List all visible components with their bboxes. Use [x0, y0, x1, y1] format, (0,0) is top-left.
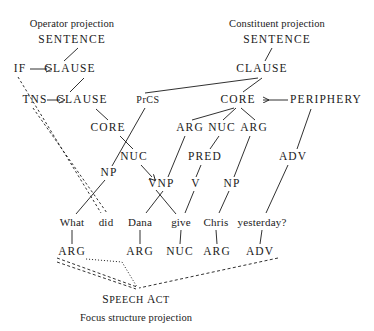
op-node-clause-1: CLAUSE [44, 63, 95, 75]
cn-node-pred: PRED [188, 151, 222, 163]
cn-node-np-2: NP [158, 178, 175, 190]
edge-op-clause2-core [96, 109, 108, 120]
edge-cn-periphery-adv [297, 109, 311, 149]
edge-cn-core-arg1 [192, 108, 234, 120]
edge-focus-potential-left [57, 258, 137, 287]
edge-focus-actual-focus-domain [86, 259, 137, 287]
op-node-sentence: SENTENCE [38, 34, 106, 46]
edge-cn-np3-chris [219, 191, 229, 213]
cn-node-sentence: SENTENCE [243, 34, 311, 46]
op-node-clause-2: CLAUSE [56, 94, 107, 106]
word-what: What [60, 217, 85, 228]
cn-node-periphery: PERIPHERY [290, 94, 362, 106]
cn-node-nuc: NUC [208, 122, 236, 134]
cn-node-prcs: PrCS [136, 95, 160, 105]
fs-node-arg-1: ARG [58, 246, 86, 258]
cn-node-arg-2: ARG [240, 122, 268, 134]
fs-node-arg-2: ARG [126, 246, 154, 258]
edge-op-v-give [156, 190, 176, 214]
edge-cn-nuc-pred [210, 136, 219, 149]
edge-cn-np2-dana [146, 191, 163, 213]
word-did: did [99, 217, 114, 228]
rrg-clause-structure-diagram: CLAUSE1 (arrow) --> CLAUSE2 (arrow) --> [0, 0, 374, 331]
operator-projection-caption: Operator projection [30, 19, 114, 30]
fs-node-adv: ADV [246, 246, 274, 258]
edge-give-nuc [180, 230, 181, 244]
cn-node-adv: ADV [279, 151, 307, 163]
cn-node-core: CORE [220, 94, 255, 106]
edge-op-sentence-clause [64, 48, 78, 61]
op-node-if: IF [14, 63, 26, 75]
edge-cn-pred-v [196, 165, 201, 177]
edge-cn-arg1-np2 [168, 136, 185, 177]
edge-chris-arg [216, 230, 217, 244]
edge-yesterday-adv [260, 230, 262, 244]
speech-act-s: S [102, 293, 109, 305]
word-to-focus-edges [72, 230, 262, 244]
constituent-projection-caption: Constituent projection [229, 19, 325, 30]
edge-cn-clause-core [243, 78, 262, 92]
fs-node-arg-3: ARG [203, 246, 231, 258]
speech-act-peech: PEECH [109, 294, 147, 305]
edge-cn-v-give [185, 191, 194, 213]
cn-node-v: V [191, 178, 200, 190]
op-node-core: CORE [90, 122, 125, 134]
word-dana: Dana [128, 217, 152, 228]
word-give: give [171, 217, 191, 228]
diagram-edges: CLAUSE1 (arrow) --> CLAUSE2 (arrow) --> [0, 0, 374, 331]
edge-op-nuc-v [141, 165, 152, 177]
cn-node-np-1: NP [101, 167, 118, 179]
edge-focus-potential-left-2 [57, 262, 136, 289]
speech-act-node: SPEECH ACT [102, 294, 170, 306]
word-chris: Chris [204, 217, 229, 228]
edge-cn-core-arg2 [241, 108, 255, 120]
speech-act-ct: CT [156, 294, 170, 305]
cn-node-clause: CLAUSE [236, 63, 287, 75]
focus-structure-edges [57, 258, 278, 289]
focus-structure-projection-caption: Focus structure projection [80, 313, 192, 324]
edge-op-core-nuc [120, 136, 133, 149]
cn-node-arg-1: ARG [176, 122, 204, 134]
op-node-nuc: NUC [120, 151, 148, 163]
edge-cn-core-nuc [223, 108, 236, 120]
word-yesterday: yesterday? [237, 217, 286, 228]
fs-node-nuc: NUC [166, 246, 194, 258]
op-node-v: V [148, 178, 157, 190]
edge-cn-adv-yesterday [266, 165, 288, 213]
edge-focus-potential-right [139, 258, 278, 288]
cn-node-np-3: NP [224, 178, 241, 190]
speech-act-a: A [147, 293, 156, 305]
op-node-tns: TNS [22, 94, 47, 106]
edge-cn-np1-what [76, 180, 105, 214]
edge-cn-sentence-clause [265, 48, 272, 61]
edge-op-clause1-clause2 [70, 78, 84, 92]
edge-cn-arg2-np3 [234, 136, 250, 177]
edge-cn-clause-prcs [145, 78, 258, 93]
